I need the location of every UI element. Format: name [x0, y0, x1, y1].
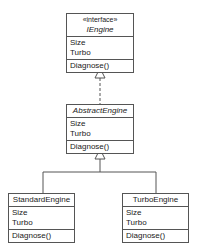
operation: Diagnose() — [12, 231, 71, 241]
attributes: Size Turbo — [123, 207, 188, 230]
attributes: Size Turbo — [67, 37, 133, 60]
class-header: «interface» IEngine — [67, 14, 133, 37]
attribute: Size — [126, 208, 185, 218]
attribute: Size — [70, 38, 130, 48]
class-name: StandardEngine — [11, 195, 72, 205]
attribute: Size — [12, 208, 71, 218]
attribute: Turbo — [70, 129, 130, 139]
operation: Diagnose() — [70, 142, 130, 152]
class-turbo-engine[interactable]: TurboEngine Size Turbo Diagnose() — [122, 193, 189, 243]
stereotype: «interface» — [69, 15, 131, 25]
class-name: IEngine — [69, 25, 131, 35]
attributes: Size Turbo — [9, 207, 74, 230]
operations: Diagnose() — [9, 230, 74, 242]
class-standard-engine[interactable]: StandardEngine Size Turbo Diagnose() — [8, 193, 75, 243]
class-header: TurboEngine — [123, 194, 188, 207]
class-name: TurboEngine — [125, 195, 186, 205]
operation: Diagnose() — [70, 61, 130, 71]
class-header: AbstractEngine — [67, 105, 133, 118]
attribute: Turbo — [12, 218, 71, 228]
operations: Diagnose() — [67, 141, 133, 153]
operations: Diagnose() — [123, 230, 188, 242]
class-name: AbstractEngine — [69, 106, 131, 116]
attribute: Turbo — [70, 48, 130, 58]
class-abstract-engine[interactable]: AbstractEngine Size Turbo Diagnose() — [66, 104, 134, 154]
attributes: Size Turbo — [67, 118, 133, 141]
attribute: Size — [70, 119, 130, 129]
operation: Diagnose() — [126, 231, 185, 241]
attribute: Turbo — [126, 218, 185, 228]
operations: Diagnose() — [67, 60, 133, 72]
class-header: StandardEngine — [9, 194, 74, 207]
class-iengine[interactable]: «interface» IEngine Size Turbo Diagnose(… — [66, 13, 134, 73]
